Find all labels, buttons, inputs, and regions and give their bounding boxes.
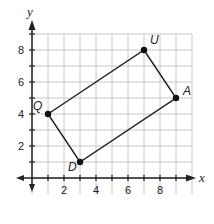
vertex-point-A bbox=[173, 95, 179, 101]
vertex-label-U: U bbox=[150, 33, 159, 47]
x-tick-label: 8 bbox=[157, 184, 163, 196]
x-tick-label: 6 bbox=[125, 184, 131, 196]
vertex-point-U bbox=[141, 47, 147, 53]
y-tick-label: 8 bbox=[18, 44, 24, 56]
y-axis-arrow-up-icon bbox=[29, 20, 36, 30]
x-tick-label: 2 bbox=[61, 184, 67, 196]
x-tick-label: 4 bbox=[93, 184, 99, 196]
tick-marks-and-labels: 24682468 bbox=[18, 34, 176, 196]
vertex-label-Q: Q bbox=[33, 99, 42, 113]
grid-lines bbox=[32, 34, 192, 194]
vertex-label-D: D bbox=[68, 160, 77, 174]
x-axis-arrow-right-icon bbox=[186, 175, 196, 182]
vertex-point-D bbox=[77, 159, 83, 165]
coordinate-plane: x y 24682468 QUAD bbox=[0, 0, 214, 224]
x-axis-label: x bbox=[198, 170, 205, 185]
y-tick-label: 6 bbox=[18, 76, 24, 88]
y-axis-arrow-down-icon bbox=[29, 184, 35, 192]
x-axis-arrow-left-icon bbox=[16, 175, 24, 181]
vertex-point-Q bbox=[45, 111, 51, 117]
y-tick-label: 4 bbox=[18, 108, 24, 120]
y-axis-label: y bbox=[25, 4, 33, 19]
vertex-label-A: A bbox=[182, 84, 191, 98]
y-tick-label: 2 bbox=[18, 140, 24, 152]
